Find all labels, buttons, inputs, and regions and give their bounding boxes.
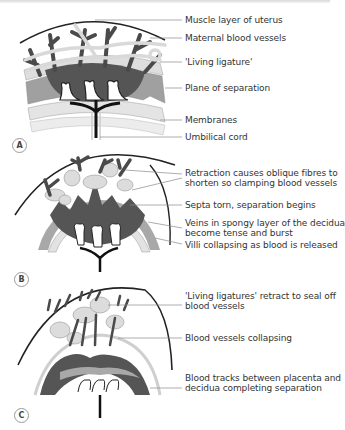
label-muscle-layer: Muscle layer of uterus — [185, 15, 283, 25]
panel-tag-c: C — [14, 408, 29, 423]
label-veins-line2: become tense and burst — [185, 228, 293, 238]
label-maternal-vessels: Maternal blood vessels — [185, 33, 286, 43]
label-vessels-collapsing: Blood vessels collapsing — [185, 333, 292, 343]
collapsing-villi — [74, 224, 120, 247]
uterus-muscle-arc — [20, 22, 165, 43]
panel-a-illustration — [20, 22, 165, 140]
label-retraction-line1: Retraction causes oblique fibres to — [185, 168, 338, 178]
label-ligatures-retract-line1: 'Living ligatures' retract to seal off — [185, 291, 336, 301]
label-retraction-line2: shorten so clamping blood vessels — [185, 178, 337, 188]
label-membranes: Membranes — [185, 115, 237, 125]
panel-tag-b: B — [14, 272, 29, 287]
label-blood-tracks-line1: Blood tracks between placenta and — [185, 373, 341, 383]
label-plane-of-separation: Plane of separation — [185, 83, 270, 93]
label-umbilical-cord: Umbilical cord — [185, 132, 248, 142]
label-septa-torn: Septa torn, separation begins — [185, 200, 316, 210]
label-veins-line1: Veins in spongy layer of the decidua — [185, 218, 345, 228]
panel-b-illustration — [15, 155, 175, 272]
umbilical-cord — [80, 248, 118, 272]
panel-c-illustration — [18, 288, 172, 418]
label-villi-collapsing: Villi collapsing as blood is released — [185, 240, 338, 250]
panel-tag-a: A — [12, 138, 27, 153]
label-ligatures-retract-line2: blood vessels — [185, 301, 244, 311]
villi-outlines — [78, 380, 119, 392]
label-blood-tracks-line2: decidua completing separation — [185, 383, 322, 393]
label-living-ligature: 'Living ligature' — [185, 57, 252, 67]
